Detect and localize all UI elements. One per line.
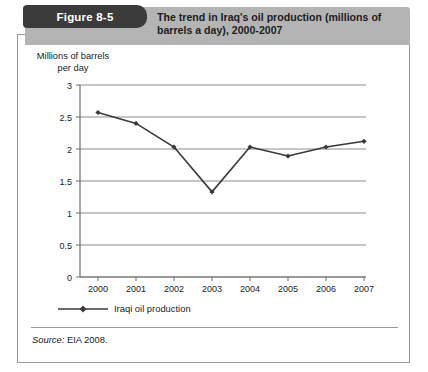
x-tick-label: 2005 [278, 284, 298, 294]
y-tick-label: 0 [67, 273, 72, 283]
y-tick-label: 2 [67, 145, 72, 155]
line-chart: 3 2.5 2 1.5 1 0.5 0 [18, 35, 411, 305]
figure-card-frame: Millions of barrels per day [17, 34, 410, 363]
x-axis-tick-labels: 2000 2001 2002 2003 2004 2005 2006 2007 [88, 284, 374, 294]
figure-title: The trend in Iraq's oil production (mill… [157, 11, 403, 38]
x-axis-ticks [98, 277, 364, 281]
data-point-2005 [285, 153, 290, 158]
x-tick-label: 2006 [316, 284, 336, 294]
series-line-iraqi-oil-production [98, 113, 364, 192]
y-tick-label: 1 [67, 209, 72, 219]
figure-container: Millions of barrels per day [0, 0, 428, 372]
series-markers [95, 110, 366, 195]
source-line: Source: EIA 2008. [32, 334, 108, 345]
source-label: Source: [32, 334, 64, 345]
x-tick-label: 2003 [202, 284, 222, 294]
chart-legend: Iraqi oil production [58, 303, 191, 314]
y-tick-label: 1.5 [59, 177, 72, 187]
x-tick-label: 2004 [240, 284, 260, 294]
legend-label: Iraqi oil production [114, 303, 191, 314]
x-tick-label: 2007 [354, 284, 374, 294]
data-point-2000 [95, 110, 100, 115]
chart-plot-area: Millions of barrels per day [18, 35, 411, 364]
x-tick-label: 2000 [88, 284, 108, 294]
legend-swatch-icon [58, 304, 108, 314]
gridlines [80, 85, 366, 277]
data-point-2007 [361, 139, 366, 144]
y-tick-label: 2.5 [59, 113, 72, 123]
x-tick-label: 2001 [126, 284, 146, 294]
y-tick-label: 0.5 [59, 241, 72, 251]
x-tick-label: 2002 [164, 284, 184, 294]
source-text: EIA 2008. [67, 334, 108, 345]
y-tick-label: 3 [67, 81, 72, 91]
figure-number-label: Figure 8-5 [57, 11, 114, 23]
source-divider [31, 327, 398, 328]
figure-number-badge: Figure 8-5 [23, 5, 147, 28]
y-axis-tick-labels: 3 2.5 2 1.5 1 0.5 0 [59, 81, 72, 283]
